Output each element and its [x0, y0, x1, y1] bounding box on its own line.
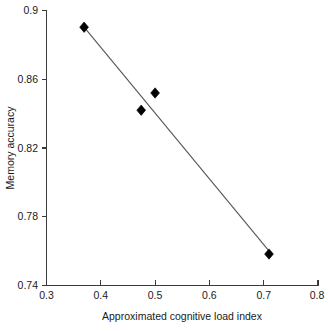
x-tick-label: 0.5	[148, 289, 163, 301]
scatter-chart: 0.9 0.86 0.82 0.78 0.74 0.3 0.4 0.5 0.6 …	[0, 0, 328, 331]
x-axis-title: Approximated cognitive load index	[102, 310, 263, 322]
x-axis-tick-labels: 0.3 0.4 0.5 0.6 0.7 0.8	[39, 289, 324, 301]
y-tick-label: 0.78	[18, 210, 39, 222]
y-axis-title: Memory accuracy	[4, 106, 16, 190]
x-tick-label: 0.3	[39, 289, 54, 301]
chart-canvas: 0.9 0.86 0.82 0.78 0.74 0.3 0.4 0.5 0.6 …	[0, 0, 328, 331]
y-tick-label: 0.86	[18, 73, 39, 85]
y-tick-label: 0.82	[18, 142, 39, 154]
x-tick-label: 0.8	[310, 289, 325, 301]
trend-line	[84, 27, 272, 254]
x-tick-label: 0.7	[256, 289, 271, 301]
x-axis-ticks	[47, 280, 319, 286]
data-point-marker	[151, 88, 160, 98]
y-axis-ticks	[42, 11, 47, 286]
data-point-marker	[137, 105, 146, 115]
x-tick-label: 0.6	[202, 289, 217, 301]
y-axis-tick-labels: 0.9 0.86 0.82 0.78 0.74	[18, 4, 39, 291]
y-tick-label: 0.9	[23, 4, 38, 16]
x-tick-label: 0.4	[93, 289, 108, 301]
y-tick-label: 0.74	[18, 279, 39, 291]
data-point-marker	[265, 249, 274, 259]
axes-frame	[47, 10, 319, 286]
